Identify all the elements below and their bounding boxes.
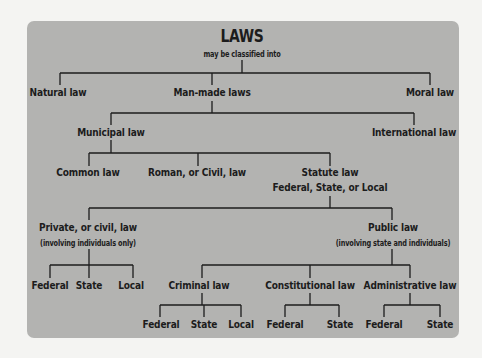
diagram-title: LAWS [221, 26, 264, 46]
node-administrative-law: Administrative law [364, 279, 457, 292]
node-private-civil-law-sub: (involving individuals only) [40, 239, 136, 248]
node-moral-law: Moral law [406, 86, 454, 99]
node-public-law-sub: (involving state and individuals) [336, 239, 450, 248]
node-private-federal: Federal [32, 279, 69, 292]
node-statute-law-sub: Federal, State, or Local [273, 181, 388, 194]
node-common-law: Common law [56, 166, 119, 179]
node-man-made-laws: Man-made laws [173, 86, 250, 99]
node-criminal-federal: Federal [143, 318, 180, 331]
node-administrative-federal: Federal [366, 318, 403, 331]
node-statute-law: Statute law [302, 166, 359, 179]
node-criminal-local: Local [228, 318, 254, 331]
node-private-civil-law: Private, or civil, law [39, 221, 137, 234]
node-criminal-law: Criminal law [169, 279, 230, 292]
node-public-law: Public law [368, 221, 418, 234]
node-natural-law: Natural law [30, 86, 87, 99]
node-constitutional-federal: Federal [267, 318, 304, 331]
node-private-state: State [76, 279, 103, 292]
node-administrative-state: State [427, 318, 454, 331]
diagram-subtitle: may be classified into [203, 50, 280, 59]
node-constitutional-state: State [327, 318, 354, 331]
node-municipal-law: Municipal law [77, 126, 145, 139]
node-international-law: International law [372, 126, 456, 139]
node-private-local: Local [118, 279, 144, 292]
node-criminal-state: State [191, 318, 218, 331]
node-constitutional-law: Constitutional law [265, 279, 355, 292]
node-roman-civil-law: Roman, or Civil, law [148, 166, 246, 179]
